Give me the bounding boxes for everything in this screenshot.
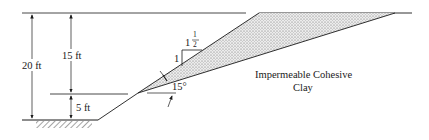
dim-15ft-label: 15 ft xyxy=(62,50,82,61)
slope-diagram: 20 ft 15 ft 5 ft 1 1 1 2 15° Impermeable… xyxy=(0,0,429,140)
angle-label: 15° xyxy=(172,81,187,92)
slope-ratio-horizontal-whole: 1 xyxy=(185,37,190,48)
slope-ratio-horizontal-den: 2 xyxy=(193,40,197,49)
material-label-line2: Clay xyxy=(293,82,314,93)
wedge-angle-tick xyxy=(160,71,163,75)
slope-ratio-vertical: 1 xyxy=(174,53,179,64)
angle-arrow xyxy=(168,96,172,107)
dim-20ft-label: 20 ft xyxy=(22,60,42,71)
ground-hatch xyxy=(36,121,92,128)
slope-ratio-horizontal-num: 1 xyxy=(193,30,197,39)
slope-toe-line xyxy=(98,93,138,120)
material-label-line1: Impermeable Cohesive xyxy=(255,69,352,80)
dim-5ft-label: 5 ft xyxy=(76,102,90,113)
